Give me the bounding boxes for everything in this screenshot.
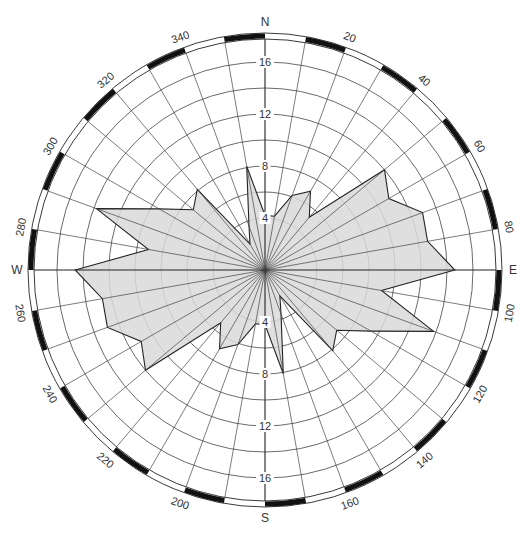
rim-bar-110 (468, 350, 485, 387)
rim-bar-230 (62, 387, 85, 420)
rim-bar-330 (148, 50, 185, 67)
rim-bar-130 (415, 420, 444, 449)
ring-label-8: 8 (262, 160, 268, 172)
ring-label-12: 12 (259, 108, 271, 120)
angle-label-220: 220 (95, 449, 117, 470)
ring-label-8: 8 (262, 368, 268, 380)
ring-label-4: 4 (262, 212, 268, 224)
angle-label-120: 120 (470, 383, 490, 405)
ring-label-4: 4 (262, 316, 268, 328)
angle-label-40: 40 (416, 71, 433, 88)
ring-label-16: 16 (259, 472, 271, 484)
angle-label-20: 20 (342, 29, 358, 44)
rim-bar-210 (115, 449, 148, 472)
angle-label-200: 200 (170, 494, 191, 512)
cardinal-label-n: N (261, 15, 270, 29)
rose-diagram: 2040608010012014016020022024026028030032… (0, 0, 530, 536)
angle-label-100: 100 (502, 303, 517, 323)
ring-label-16: 16 (259, 56, 271, 68)
angle-label-240: 240 (40, 383, 60, 405)
cardinal-label-w: W (11, 263, 23, 277)
angle-label-320: 320 (95, 70, 117, 91)
cardinal-label-s: S (261, 511, 269, 525)
angle-label-300: 300 (40, 135, 60, 157)
cardinal-label-e: E (509, 263, 517, 277)
rim-bar-50 (444, 120, 467, 153)
angle-label-260: 260 (13, 303, 28, 323)
angle-label-140: 140 (414, 449, 436, 470)
angle-label-80: 80 (502, 220, 516, 234)
rim-bar-290 (45, 153, 62, 190)
ring-label-12: 12 (259, 420, 271, 432)
angle-label-160: 160 (339, 494, 360, 512)
angle-label-280: 280 (13, 217, 28, 237)
angle-label-340: 340 (170, 28, 191, 46)
angle-label-60: 60 (472, 138, 489, 155)
rim-bar-150 (345, 473, 382, 490)
rim-bar-310 (86, 91, 115, 120)
rim-bar-30 (382, 67, 415, 90)
